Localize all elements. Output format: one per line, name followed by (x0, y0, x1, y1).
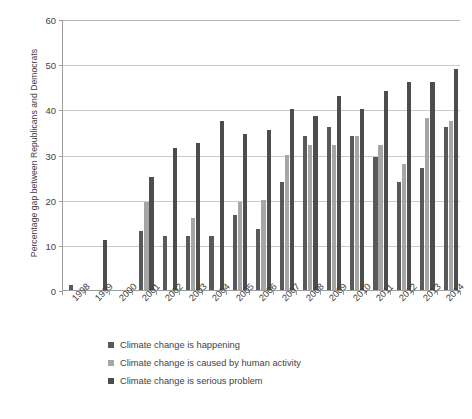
legend-item: Climate change is caused by human activi… (108, 354, 408, 372)
y-tick-label: 20 (45, 195, 56, 206)
bar (303, 136, 307, 290)
bar (69, 285, 73, 290)
bar (191, 218, 195, 290)
y-tick-label: 60 (45, 15, 56, 26)
bar (308, 145, 312, 290)
bar (337, 96, 341, 290)
legend-label: Climate change is serious problem (120, 376, 263, 386)
bar (196, 143, 200, 290)
bar (360, 109, 364, 290)
bar (444, 127, 448, 290)
legend-item: Climate change is serious problem (108, 372, 408, 390)
x-tick-mark (62, 291, 63, 295)
y-tick-label: 50 (45, 60, 56, 71)
bar (313, 116, 317, 290)
bar (285, 155, 289, 291)
legend-swatch-icon (108, 378, 114, 384)
bar (373, 157, 377, 290)
legend-label: Climate change is caused by human activi… (120, 358, 301, 368)
bar (402, 164, 406, 290)
y-tick-label: 10 (45, 240, 56, 251)
bar (149, 177, 153, 290)
bar (332, 145, 336, 290)
bar (454, 69, 458, 290)
legend-item: Climate change is happening (108, 336, 408, 354)
bar (243, 134, 247, 290)
bar (238, 202, 242, 290)
bar (186, 236, 190, 290)
bar (407, 82, 411, 290)
bar (139, 231, 143, 290)
bar (327, 127, 331, 290)
bar (256, 229, 260, 290)
bar (425, 118, 429, 290)
legend-swatch-icon (108, 360, 114, 366)
bar (384, 91, 388, 290)
bar (420, 168, 424, 290)
bar-chart: Percentage gap between Republicans and D… (0, 0, 472, 419)
bar (163, 236, 167, 290)
bar (430, 82, 434, 290)
bar (267, 130, 271, 290)
bar (220, 121, 224, 290)
legend-swatch-icon (108, 342, 114, 348)
bar (350, 136, 354, 290)
y-tick-label: 30 (45, 150, 56, 161)
bar (144, 202, 148, 290)
bar (290, 109, 294, 290)
y-tick-label: 0 (51, 286, 56, 297)
bar (355, 136, 359, 290)
chart-legend: Climate change is happeningClimate chang… (108, 336, 408, 390)
bar (261, 200, 265, 290)
bar (378, 145, 382, 290)
plot-area: 0102030405060 (62, 20, 460, 291)
bar (233, 215, 237, 290)
bar (280, 182, 284, 290)
bar (397, 182, 401, 290)
legend-label: Climate change is happening (120, 340, 240, 350)
bar (449, 121, 453, 290)
y-tick-label: 40 (45, 105, 56, 116)
bar (173, 148, 177, 290)
y-axis-title: Percentage gap between Republicans and D… (29, 12, 39, 294)
bars-layer (63, 20, 460, 290)
bar (209, 236, 213, 290)
